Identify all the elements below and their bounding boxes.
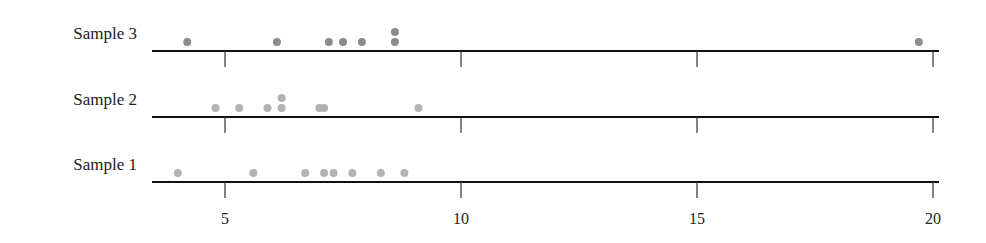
strip-rows: Sample 3Sample 2Sample 1 (73, 24, 939, 182)
strip-chart: Sample 3Sample 2Sample 1 5101520 (0, 0, 986, 243)
x-tick-label: 10 (453, 210, 469, 227)
data-point (301, 169, 309, 177)
row-label: Sample 3 (73, 24, 137, 43)
data-point (325, 38, 333, 46)
x-tick-label: 15 (689, 210, 705, 227)
data-point (348, 169, 356, 177)
data-point (415, 104, 423, 112)
strip-row: Sample 3 (73, 24, 939, 51)
data-point (339, 38, 347, 46)
data-point (273, 38, 281, 46)
data-point (183, 38, 191, 46)
data-point (174, 169, 182, 177)
strip-row: Sample 1 (73, 155, 939, 182)
data-point (358, 38, 366, 46)
data-point (391, 38, 399, 46)
x-tick-label: 5 (221, 210, 229, 227)
data-point (278, 94, 286, 102)
data-point (263, 104, 271, 112)
row-label: Sample 1 (73, 155, 137, 174)
data-point (320, 104, 328, 112)
data-point (278, 104, 286, 112)
x-tick-label: 20 (925, 210, 941, 227)
data-point (330, 169, 338, 177)
data-point (235, 104, 243, 112)
data-point (249, 169, 257, 177)
data-point (377, 169, 385, 177)
strip-row: Sample 2 (73, 90, 939, 117)
row-label: Sample 2 (73, 90, 137, 109)
x-axis: 5101520 (221, 51, 941, 227)
data-point (915, 38, 923, 46)
data-point (400, 169, 408, 177)
data-point (212, 104, 220, 112)
data-point (320, 169, 328, 177)
data-point (391, 28, 399, 36)
